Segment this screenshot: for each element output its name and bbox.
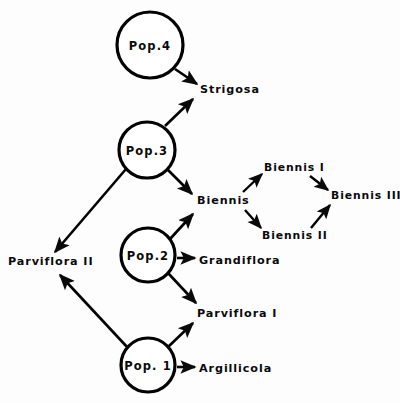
label-biennis-3: Biennis III [331, 189, 400, 202]
node-pop1[interactable]: Pop. 1 [121, 338, 175, 392]
node-pop4[interactable]: Pop.4 [117, 12, 183, 78]
pop1-label: Pop. 1 [124, 359, 172, 373]
label-biennis-2: Biennis II [262, 229, 328, 242]
edge-layer [55, 69, 330, 367]
edge-pop4-to-strigosa [175, 69, 197, 84]
population-relationship-diagram: Pop.4 Pop.3 Pop.2 Pop. 1 Strigosa Bienni… [0, 0, 400, 403]
label-biennis-1: Biennis I [264, 161, 325, 174]
leaf-label-layer: Strigosa Biennis Biennis I Biennis II Bi… [8, 83, 400, 375]
edge-pop3-to-biennis [167, 169, 192, 194]
label-strigosa: Strigosa [200, 83, 260, 96]
label-biennis: Biennis [197, 194, 250, 207]
label-argillicola: Argillicola [199, 362, 272, 375]
node-pop2[interactable]: Pop.2 [121, 228, 175, 282]
edge-pop1-to-parviflora1 [167, 323, 193, 348]
pop3-label: Pop.3 [126, 144, 168, 158]
edge-pop3-to-parviflora2 [55, 169, 126, 252]
pop2-label: Pop.2 [127, 249, 169, 263]
edge-pop1-to-parviflora2 [60, 275, 128, 348]
edge-pop2-to-parviflora1 [168, 273, 196, 303]
edge-pop3-to-strigosa [165, 99, 193, 126]
node-pop3[interactable]: Pop.3 [119, 122, 175, 178]
node-layer: Pop.4 Pop.3 Pop.2 Pop. 1 [117, 12, 183, 392]
edge-pop2-to-biennis [170, 214, 193, 239]
diagram-canvas: Pop.4 Pop.3 Pop.2 Pop. 1 Strigosa Bienni… [0, 0, 400, 403]
pop4-label: Pop.4 [129, 39, 171, 53]
edge-biennis2-to-biennis3 [311, 205, 330, 228]
edge-biennis1-to-biennis3 [310, 176, 328, 190]
label-grandiflora: Grandiflora [199, 254, 280, 267]
edge-biennis-to-biennis1 [243, 174, 262, 192]
edge-biennis-to-biennis2 [245, 210, 261, 228]
label-parviflora-1: Parviflora I [197, 307, 277, 320]
label-parviflora-2: Parviflora II [8, 255, 93, 268]
